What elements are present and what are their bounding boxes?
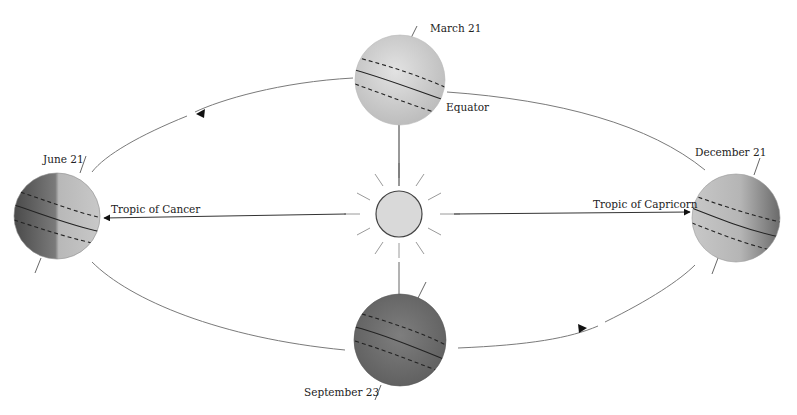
- earth-march: [355, 26, 447, 125]
- label-tropic-cancer: Tropic of Cancer: [111, 203, 201, 215]
- label-september: September 23: [304, 386, 379, 398]
- earth-september: [354, 282, 446, 400]
- axis-north-september: [418, 282, 426, 298]
- seasons-diagram: March 21 Equator June 21 Tropic of Cance…: [0, 0, 797, 415]
- axis-south-december: [712, 258, 718, 274]
- label-june: June 21: [42, 153, 84, 165]
- label-december: December 21: [695, 146, 766, 158]
- earth-december: [692, 158, 780, 274]
- label-tropic-capricorn: Tropic of Capricorn: [593, 198, 698, 210]
- earth-june: [14, 156, 102, 273]
- sun-icon: [344, 163, 460, 258]
- beam-to-december: [454, 212, 690, 214]
- axis-north-december: [754, 158, 760, 175]
- label-march: March 21: [430, 22, 481, 34]
- diagram-canvas: March 21 Equator June 21 Tropic of Cance…: [0, 0, 797, 415]
- axis-south-june: [35, 258, 41, 273]
- label-equator: Equator: [446, 101, 490, 113]
